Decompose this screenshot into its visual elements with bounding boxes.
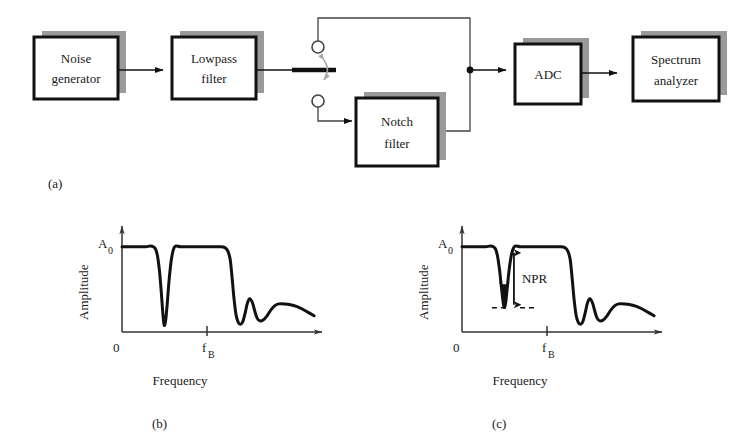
block-label-line2: filter xyxy=(384,136,410,151)
block-noise-generator[interactable]: Noise generator xyxy=(34,31,126,99)
switch-terminal-lower[interactable] xyxy=(312,95,324,107)
block-label-line2: analyzer xyxy=(654,73,699,88)
block-body xyxy=(34,37,118,99)
plot-c-x-origin-label: 0 xyxy=(453,340,460,355)
plot-c-x-axis-label: Frequency xyxy=(493,373,548,388)
block-label-line2: filter xyxy=(201,71,227,86)
block-body xyxy=(172,37,256,99)
block-spectrum-analyzer[interactable]: Spectrum analyzer xyxy=(633,31,727,101)
plot-c-y-top-label: A xyxy=(438,236,448,251)
plot-c-npr-label: NPR xyxy=(522,271,548,286)
panel-b-plot: A 0 0 f B Amplitude Frequency (b) xyxy=(76,226,322,431)
plot-b-x-origin-label: 0 xyxy=(113,340,120,355)
plot-b-y-top-label: A xyxy=(98,236,108,251)
plot-b-y-axis-label: Amplitude xyxy=(76,264,91,320)
toggle-switch[interactable] xyxy=(292,41,336,107)
plot-b-x-axis-label: Frequency xyxy=(153,373,208,388)
block-label-line1: Lowpass xyxy=(191,51,237,66)
block-body xyxy=(633,37,719,101)
plot-b-spectrum-curve xyxy=(122,246,314,326)
plot-b-xtick-label: f xyxy=(202,340,207,355)
block-label-line1: Spectrum xyxy=(651,52,701,67)
plot-b-y-top-sub: 0 xyxy=(108,245,113,256)
panel-caption-b: (b) xyxy=(152,416,167,431)
plot-c-y-axis-label: Amplitude xyxy=(416,264,431,320)
panel-c-plot: NPR A 0 0 f B Amplitude Frequency (c) xyxy=(416,226,662,431)
panel-caption-a: (a) xyxy=(48,176,62,191)
plot-c-spectrum-curve xyxy=(462,246,654,324)
block-adc[interactable]: ADC xyxy=(515,38,589,104)
block-label-line2: generator xyxy=(51,71,101,86)
panel-caption-c: (c) xyxy=(492,416,506,431)
block-label-line1: Notch xyxy=(381,114,413,129)
plot-c-xtick-label: f xyxy=(542,340,547,355)
bypass-path xyxy=(318,18,470,68)
plot-c-y-top-sub: 0 xyxy=(448,245,453,256)
panel-a-block-diagram: Noise generator Lowpass filter xyxy=(34,18,727,191)
connector-switch-to-notch xyxy=(318,107,352,121)
block-lowpass-filter[interactable]: Lowpass filter xyxy=(172,31,264,99)
block-body xyxy=(356,98,438,166)
plot-c-xtick-sub: B xyxy=(548,349,555,360)
block-notch-filter[interactable]: Notch filter xyxy=(356,92,446,166)
block-label-line1: ADC xyxy=(534,67,561,82)
connector-notch-to-junction xyxy=(446,70,470,131)
switch-terminal-upper[interactable] xyxy=(312,41,324,53)
npr-measurement-figure: Noise generator Lowpass filter xyxy=(0,0,735,444)
block-label-line1: Noise xyxy=(61,51,92,66)
plot-b-xtick-sub: B xyxy=(208,349,215,360)
